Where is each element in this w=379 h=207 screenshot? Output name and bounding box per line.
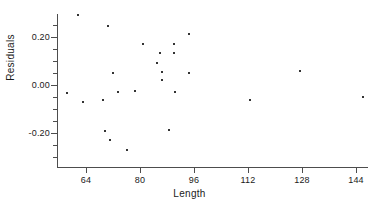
- data-point: [66, 92, 68, 94]
- data-point: [161, 79, 163, 81]
- data-point: [117, 91, 119, 93]
- x-axis-title: Length: [0, 188, 379, 199]
- data-point: [299, 70, 301, 72]
- data-point: [109, 139, 111, 141]
- scatter-plot-figure: 0.200.00-0.20648096112128144 Length Resi…: [0, 0, 379, 207]
- data-point: [173, 52, 175, 54]
- data-point: [174, 91, 176, 93]
- data-point: [112, 72, 114, 74]
- data-point: [102, 99, 104, 101]
- data-point: [77, 14, 79, 16]
- data-point: [249, 99, 251, 101]
- data-point: [82, 101, 84, 103]
- data-point: [156, 62, 158, 64]
- data-point: [161, 71, 163, 73]
- data-point: [126, 149, 128, 151]
- data-point: [142, 43, 144, 45]
- data-point: [159, 52, 161, 54]
- data-point: [188, 33, 190, 35]
- data-point: [362, 96, 364, 98]
- data-point: [188, 72, 190, 74]
- y-axis-title: Residuals: [5, 18, 16, 98]
- data-point: [134, 90, 136, 92]
- data-point: [104, 130, 106, 132]
- data-point: [173, 43, 175, 45]
- data-points-layer: [0, 0, 379, 207]
- data-point: [107, 25, 109, 27]
- data-point: [168, 129, 170, 131]
